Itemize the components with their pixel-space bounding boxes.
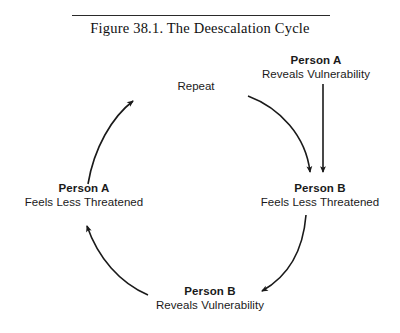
node-subtitle: Reveals Vulnerability: [120, 299, 300, 313]
edge-right-bottom: [262, 215, 306, 291]
cycle-diagram-canvas: [0, 0, 400, 333]
node-subtitle: Feels Less Threatened: [240, 196, 400, 210]
node-person-b-reveals: Person B Reveals Vulnerability: [120, 285, 300, 312]
node-person-b-feels: Person B Feels Less Threatened: [240, 182, 400, 209]
figure-page: Figure 38.1. The Deescalation Cycle Pers…: [0, 0, 400, 333]
node-person-a-reveals: Person A Reveals Vulnerability: [232, 54, 400, 81]
node-title: Person A: [0, 182, 168, 196]
node-subtitle: Feels Less Threatened: [0, 196, 168, 210]
node-title: Person A: [232, 54, 400, 68]
node-subtitle: Reveals Vulnerability: [232, 68, 400, 82]
edge-top-right: [248, 96, 310, 172]
annotation-repeat: Repeat: [146, 80, 246, 92]
node-title: Person B: [120, 285, 300, 299]
node-person-a-feels: Person A Feels Less Threatened: [0, 182, 168, 209]
edge-left-top: [88, 101, 133, 184]
node-title: Person B: [240, 182, 400, 196]
